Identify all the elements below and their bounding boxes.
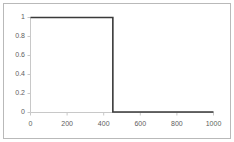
x-tick-label-800: 800 <box>162 120 192 128</box>
x-tick-label-1000: 1000 <box>199 120 229 128</box>
y-tick-label-0-4: 0.4 <box>3 70 25 78</box>
x-tick-label-400: 400 <box>89 120 119 128</box>
x-tick-label-0: 0 <box>16 120 46 128</box>
x-tick-label-200: 200 <box>52 120 82 128</box>
chart-figure: 1 0.8 0.6 0.4 0.2 0 0 200 400 600 800 10… <box>0 0 234 142</box>
y-tick-label-0-6: 0.6 <box>3 51 25 59</box>
series-step-line <box>31 18 214 113</box>
y-tick-label-0: 0 <box>3 108 25 116</box>
y-tick-label-0-8: 0.8 <box>3 32 25 40</box>
x-tick-label-600: 600 <box>125 120 155 128</box>
y-tick-label-1: 1 <box>3 13 25 21</box>
y-tick-label-0-2: 0.2 <box>3 89 25 97</box>
